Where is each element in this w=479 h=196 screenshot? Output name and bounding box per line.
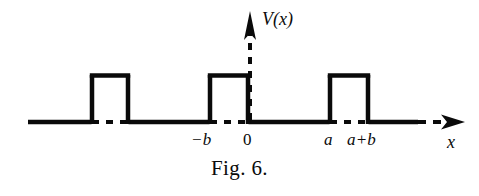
tick-label-a: a bbox=[324, 131, 333, 148]
figure-container: V(x) −b 0 a a+b x Fig. 6. bbox=[0, 0, 479, 196]
tick-label-zero: 0 bbox=[243, 131, 252, 148]
potential-barrier-1 bbox=[90, 75, 130, 124]
x-axis-arrowhead-icon bbox=[441, 115, 465, 130]
potential-barrier-2 bbox=[208, 75, 250, 124]
tick-label-minus-b: −b bbox=[191, 131, 211, 148]
tick-label-a-plus-b: a+b bbox=[347, 131, 376, 148]
x-axis-label: x bbox=[447, 133, 455, 151]
potential-barrier-3 bbox=[328, 75, 370, 124]
figure-caption: Fig. 6. bbox=[0, 158, 479, 179]
v-axis-label: V(x) bbox=[262, 10, 293, 28]
